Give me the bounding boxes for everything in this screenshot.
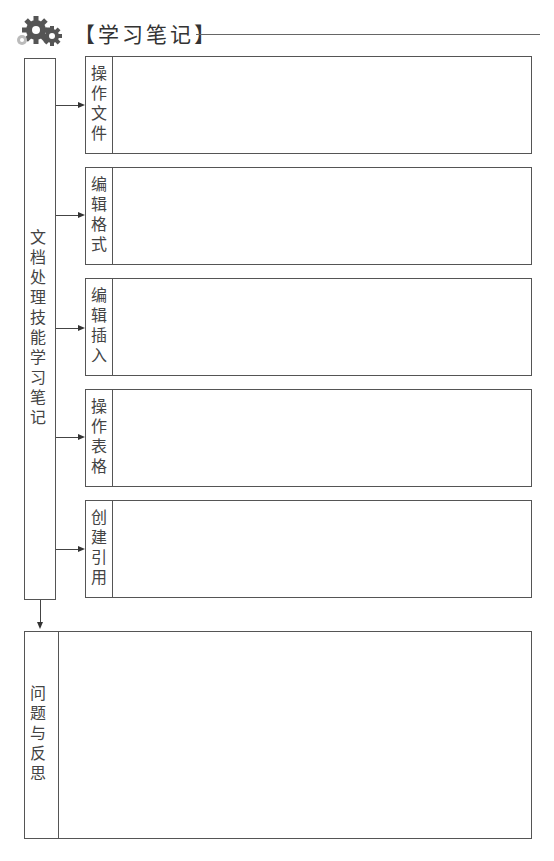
section-notes-area[interactable] [113, 57, 531, 153]
title-rule [196, 34, 540, 35]
reflection-box: 问题与反思 [24, 631, 532, 839]
header: 【学习笔记】 [14, 16, 544, 48]
page-title: 【学习笔记】 [74, 18, 218, 48]
section-box-table: 操作表格 [85, 389, 532, 487]
section-label: 操作文件 [86, 57, 109, 153]
section-notes-area[interactable] [113, 279, 531, 375]
arrow-right-icon [56, 215, 79, 216]
section-notes-area[interactable] [113, 168, 531, 264]
arrow-down-icon [40, 600, 41, 623]
section-notes-area[interactable] [113, 501, 531, 597]
section-label: 编辑插入 [86, 279, 109, 375]
section-box-file: 操作文件 [85, 56, 532, 154]
arrow-right-icon [56, 437, 79, 438]
arrow-right-icon [56, 105, 79, 106]
main-topic-label: 文档处理技能学习笔记 [25, 59, 48, 599]
arrow-right-icon [56, 328, 79, 329]
section-notes-area[interactable] [113, 390, 531, 486]
section-label: 创建引用 [86, 501, 109, 597]
arrow-right-icon [56, 549, 79, 550]
section-box-reference: 创建引用 [85, 500, 532, 598]
main-topic-box: 文档处理技能学习笔记 [24, 58, 56, 600]
section-box-insert: 编辑插入 [85, 278, 532, 376]
section-label: 编辑格式 [86, 168, 109, 264]
section-box-format: 编辑格式 [85, 167, 532, 265]
gears-icon [14, 16, 64, 50]
reflection-label: 问题与反思 [25, 632, 48, 838]
reflection-notes-area[interactable] [59, 632, 531, 838]
section-label: 操作表格 [86, 390, 109, 486]
